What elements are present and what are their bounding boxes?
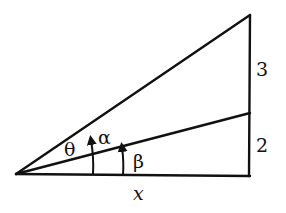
lower-segment-label: 2 [256,134,268,156]
upper-segment-label: 3 [256,58,268,80]
beta-arc [122,147,123,175]
theta-label: θ [64,138,75,160]
vertical-side [249,15,250,176]
triangle-diagram: θ α β x 3 2 [0,0,286,213]
alpha-arc [91,140,93,174]
beta-label: β [133,150,144,172]
alpha-label: α [98,126,111,148]
base-line [16,174,250,176]
base-label: x [133,182,144,204]
